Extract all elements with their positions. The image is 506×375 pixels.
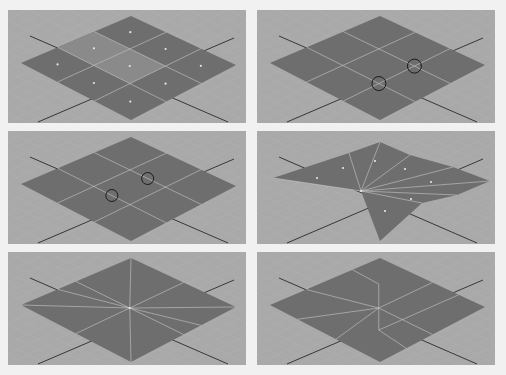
viewport-panel-4[interactable]: [257, 131, 495, 244]
viewport-5-canvas: [8, 252, 246, 365]
viewport-1-canvas: [8, 10, 246, 123]
plane-mesh: [270, 258, 485, 362]
viewport-4-canvas: [257, 131, 495, 244]
face-center-dot: [164, 48, 166, 50]
face-center-dot: [384, 210, 386, 212]
face-center-dot: [316, 177, 318, 179]
floor-grid-line: [257, 131, 297, 244]
face-center-dot: [129, 100, 131, 102]
face-center-dot: [56, 63, 58, 65]
viewport-2-canvas: [257, 10, 495, 123]
face-center-dot: [200, 65, 202, 67]
face-center-dot: [164, 83, 166, 85]
plane-mesh: [21, 258, 236, 362]
face-center-dot: [374, 160, 376, 162]
floor-grid-line: [257, 131, 297, 244]
viewport-panel-5[interactable]: [8, 252, 246, 365]
face-center-dot: [430, 181, 432, 183]
face-center-dot: [93, 82, 95, 84]
viewport-panel-2[interactable]: [257, 10, 495, 123]
center-vertex-dot: [129, 307, 131, 309]
plane-mesh: [273, 142, 490, 241]
viewport-3-canvas: [8, 131, 246, 244]
face-center-dot: [404, 168, 406, 170]
face-center-dot: [342, 167, 344, 169]
viewport-panel-1[interactable]: [8, 10, 246, 123]
face-center-dot: [129, 31, 131, 33]
viewport-6-canvas: [257, 252, 495, 365]
center-vertex-dot: [360, 190, 362, 192]
viewport-panel-6[interactable]: [257, 252, 495, 365]
floor-grid-line: [477, 131, 495, 244]
plane-mesh: [270, 16, 485, 120]
face-center-dot: [410, 198, 412, 200]
floor-grid-line: [477, 131, 495, 244]
viewport-panel-3[interactable]: [8, 131, 246, 244]
plane-mesh: [21, 137, 236, 241]
face-center-dot: [129, 65, 131, 67]
face-center-dot: [93, 47, 95, 49]
